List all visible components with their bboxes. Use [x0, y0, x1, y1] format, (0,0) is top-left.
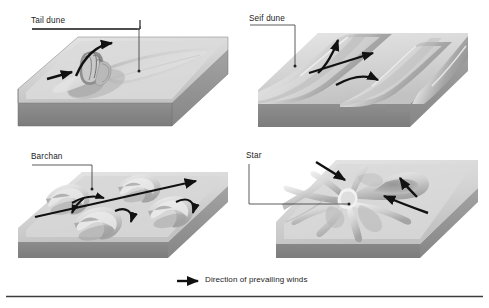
panel-barchan [18, 165, 228, 258]
dune-types-figure: Tail dune Seif dune Barchan Star Directi… [0, 0, 489, 308]
label-barchan: Barchan [31, 153, 63, 161]
label-tail-dune: Tail dune [31, 17, 65, 25]
figure-canvas [0, 0, 489, 308]
label-seif-dune: Seif dune [249, 15, 285, 23]
panel-tail-dune [18, 20, 228, 126]
panel-seif-dune [250, 25, 468, 127]
label-star-dune: Star [246, 152, 262, 160]
panel-star-dune [249, 160, 478, 258]
legend-caption: Direction of prevailing winds [205, 276, 308, 284]
